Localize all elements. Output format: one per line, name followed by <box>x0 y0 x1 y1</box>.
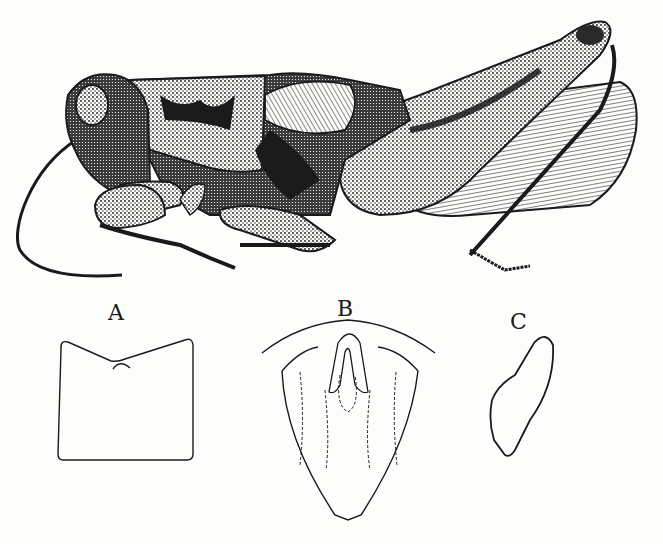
illustration-plate: A B C <box>0 0 663 544</box>
tegmen <box>265 82 355 134</box>
hind-tarsus <box>470 250 530 270</box>
figure-label-a: A <box>108 302 124 324</box>
figure-label-c: C <box>510 311 527 333</box>
eye <box>76 85 108 125</box>
figure-a-outline <box>58 339 193 460</box>
figure-c-outline <box>490 337 553 456</box>
grasshopper-illustration <box>0 0 663 544</box>
figure-label-b: B <box>337 298 353 320</box>
front-femur <box>95 185 165 228</box>
front-tibia <box>100 225 235 268</box>
